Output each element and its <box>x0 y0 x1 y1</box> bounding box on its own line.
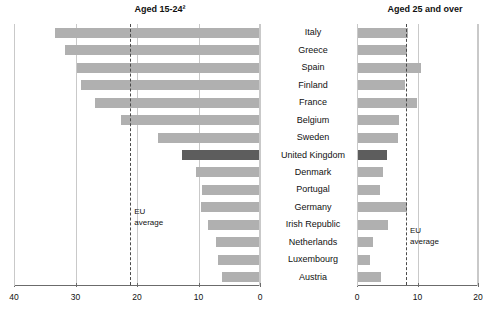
category-label-united-kingdom: United Kingdom <box>258 150 368 160</box>
eu-average-label-line1: EU <box>410 226 421 236</box>
category-label-netherlands: Netherlands <box>258 237 368 247</box>
axis-line <box>14 285 260 286</box>
right-panel-title: Aged 25 and over <box>355 4 495 14</box>
axis-tick-label: 30 <box>61 292 91 302</box>
category-label-france: France <box>258 97 368 107</box>
axis-tick-label: 10 <box>184 292 214 302</box>
eu-average-label-line2: average <box>134 218 163 228</box>
bar-austria-left <box>222 272 260 282</box>
category-label-belgium: Belgium <box>258 115 368 125</box>
eu-average-label-line2: average <box>410 237 439 247</box>
category-label-greece: Greece <box>258 45 368 55</box>
category-label-irish-republic: Irish Republic <box>258 219 368 229</box>
gridline <box>478 24 479 286</box>
bar-france-left <box>95 98 260 108</box>
bar-united-kingdom-left <box>182 150 260 160</box>
butterfly-bar-chart: Aged 15-24² Aged 25 and over ItalyGreece… <box>0 0 497 322</box>
category-label-column: ItalyGreeceSpainFinlandFranceBelgiumSwed… <box>258 24 368 286</box>
axis-tick-label: 20 <box>463 292 493 302</box>
axis-tick-label: 10 <box>403 292 433 302</box>
bar-italy-left <box>55 28 260 38</box>
left-panel-plot-area <box>14 24 260 286</box>
category-label-austria: Austria <box>258 272 368 282</box>
panel-edge-line <box>14 24 15 286</box>
category-label-spain: Spain <box>258 62 368 72</box>
bar-finland-left <box>81 80 260 90</box>
panel-edge-line <box>477 24 478 286</box>
bar-sweden-left <box>158 133 260 143</box>
bar-denmark-left <box>196 167 260 177</box>
category-label-italy: Italy <box>258 27 368 37</box>
axis-tick-label: 0 <box>245 292 275 302</box>
category-label-sweden: Sweden <box>258 132 368 142</box>
axis-line <box>357 285 478 286</box>
bar-irish-republic-left <box>208 220 260 230</box>
bar-belgium-left <box>121 115 260 125</box>
category-label-luxembourg: Luxembourg <box>258 254 368 264</box>
panel-edge-line <box>357 24 358 286</box>
category-label-denmark: Denmark <box>258 167 368 177</box>
bar-portugal-left <box>202 185 260 195</box>
bar-greece-left <box>65 45 260 55</box>
bar-luxembourg-left <box>218 255 260 265</box>
axis-tick-label: 0 <box>342 292 372 302</box>
category-label-germany: Germany <box>258 202 368 212</box>
axis-tick-label: 40 <box>0 292 29 302</box>
panel-edge-line <box>259 24 260 286</box>
eu-average-reference-line <box>130 24 131 285</box>
axis-tick <box>478 283 479 287</box>
axis-tick-label: 20 <box>122 292 152 302</box>
eu-average-reference-line <box>406 24 407 285</box>
category-label-portugal: Portugal <box>258 184 368 194</box>
bar-spain-left <box>77 63 260 73</box>
bar-germany-left <box>201 202 260 212</box>
eu-average-label-line1: EU <box>134 207 145 217</box>
left-panel-title: Aged 15-24² <box>60 4 260 14</box>
bar-netherlands-left <box>216 237 260 247</box>
category-label-finland: Finland <box>258 80 368 90</box>
